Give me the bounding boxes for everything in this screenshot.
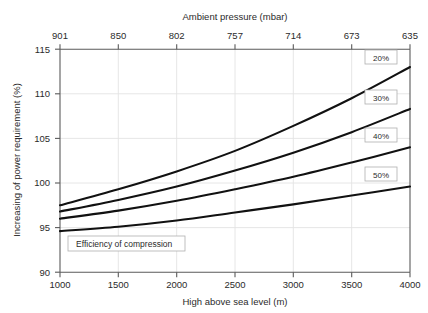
left-tick-label-1: 95 [39,222,50,233]
series-label-20: 20% [365,50,397,64]
bottom-axis-title: High above sea level (m) [182,296,287,307]
top-axis-tick-labels: 901 850 802 757 714 673 635 [52,30,418,41]
bottom-tick-label-1: 1500 [108,279,129,290]
top-tick-label-5: 673 [344,30,360,41]
series-label-text-20: 20% [373,54,389,63]
top-tick-label-6: 635 [402,30,418,41]
series-label-30: 30% [365,90,397,104]
legend-title-text: Efficiency of compression [76,239,172,249]
series-label-text-30: 30% [373,94,389,103]
bottom-tick-label-3: 2500 [224,279,245,290]
top-axis-title: Ambient pressure (mbar) [182,11,287,22]
legend-title: Efficiency of compression [68,236,185,251]
chart-container: 1000 1500 2000 2500 3000 3500 4000 901 8… [0,0,428,313]
top-tick-label-4: 714 [285,30,301,41]
series-label-text-40: 40% [373,132,389,141]
bottom-axis-ticks [60,272,410,277]
series-label-40: 40% [365,128,397,142]
line-chart: 1000 1500 2000 2500 3000 3500 4000 901 8… [0,0,428,313]
top-tick-label-1: 850 [110,30,126,41]
left-tick-label-5: 115 [35,44,50,55]
left-axis-ticks [55,49,60,272]
bottom-tick-label-0: 1000 [49,279,70,290]
left-tick-label-4: 110 [35,88,50,99]
bottom-tick-label-6: 4000 [399,279,420,290]
top-tick-label-2: 802 [169,30,185,41]
series-label-50: 50% [365,167,397,181]
left-tick-label-0: 90 [39,267,50,278]
bottom-tick-label-2: 2000 [166,279,187,290]
left-tick-label-2: 100 [34,177,50,188]
bottom-tick-label-4: 3000 [283,279,304,290]
bottom-axis-tick-labels: 1000 1500 2000 2500 3000 3500 4000 [49,279,420,290]
left-tick-label-3: 105 [34,133,50,144]
bottom-tick-label-5: 3500 [341,279,362,290]
left-axis-tick-labels: 115 110 105 100 95 90 [34,44,50,278]
series-label-text-50: 50% [373,171,389,180]
top-tick-label-0: 901 [52,30,68,41]
top-axis-ticks [60,44,410,49]
left-axis-title: Increasing of power requirement (%) [11,83,22,237]
top-tick-label-3: 757 [227,30,243,41]
